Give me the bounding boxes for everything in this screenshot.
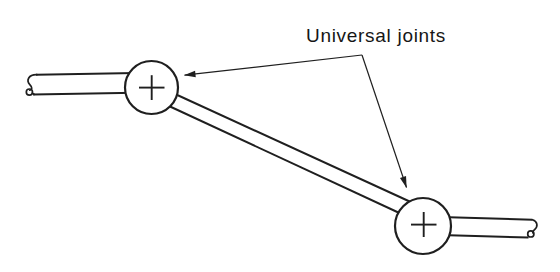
left-shaft-break-icon bbox=[26, 75, 37, 96]
intermediate-shaft-top-line bbox=[162, 88, 414, 204]
intermediate-shaft-bottom-line bbox=[156, 100, 408, 217]
diagram-line-art bbox=[26, 55, 537, 254]
driveline-diagram: Universal joints bbox=[0, 0, 560, 272]
leader-line-to-left-joint bbox=[185, 55, 363, 75]
universal-joints-label: Universal joints bbox=[306, 25, 446, 46]
intermediate-shaft bbox=[156, 88, 414, 217]
right-shaft-break-icon bbox=[528, 220, 537, 237]
driveline-diagram-figure: Universal joints bbox=[0, 0, 560, 272]
leader-line-to-right-joint bbox=[362, 55, 407, 188]
